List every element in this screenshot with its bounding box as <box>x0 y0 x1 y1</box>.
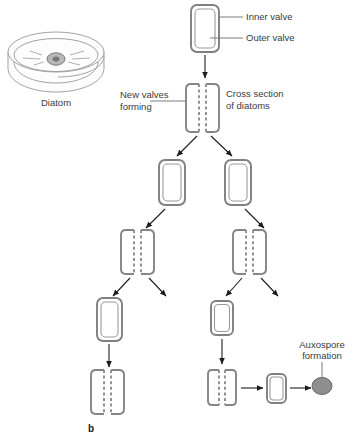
cell-tiny-before-auxospore <box>267 374 286 403</box>
cross-section-label-line2: of diatoms <box>226 100 270 111</box>
cell-generation-4-right <box>211 301 233 335</box>
cell-generation-3-right-dividing <box>233 230 266 274</box>
inner-valve-label: Inner valve <box>246 11 292 22</box>
dividing-cell-callouts: New valves forming Cross section of diat… <box>120 88 284 112</box>
arrow-gen1-gen2-right <box>211 136 232 156</box>
auxospore-label-line2: formation <box>302 350 342 361</box>
arrow-gen3-gen4-right <box>261 278 278 296</box>
arrow-gen3-gen4-left <box>113 278 130 296</box>
auxospore: Auxospore formation <box>299 339 344 395</box>
diatom-division-figure: Diatom Inner valve Outer valve <box>0 0 355 439</box>
diatom-label: Diatom <box>41 97 71 108</box>
outer-valve-label: Outer valve <box>246 32 295 43</box>
diatom-nucleolus <box>53 57 60 62</box>
arrow-gen2-gen3-right <box>245 209 264 228</box>
arrow-gen3-gen4-rightinner <box>226 278 242 296</box>
cell-generation-5-right-dividing <box>208 370 236 405</box>
arrow-gen2-gen3-left <box>146 209 165 228</box>
cross-section-label-line1: Cross section <box>226 88 284 99</box>
auxospore-shape <box>312 378 332 395</box>
cell-generation-3-left-dividing <box>121 230 154 274</box>
cell-generation-2-right <box>225 160 251 205</box>
arrow-gen3-gen4-leftinner <box>149 278 166 296</box>
valve-callouts: Inner valve Outer valve <box>210 11 295 43</box>
cell-generation-5-left-dividing <box>91 370 124 414</box>
new-valves-label-line2: forming <box>120 101 152 112</box>
diatom-illustration: Diatom <box>8 32 104 108</box>
cell-generation-0 <box>191 5 219 52</box>
cell-generation-4-left <box>97 298 122 341</box>
cell-generation-1-dividing <box>186 84 219 132</box>
panel-label-b: b <box>88 423 94 434</box>
new-valves-label-line1: New valves <box>120 89 169 100</box>
arrow-gen1-gen2-left <box>177 136 197 156</box>
auxospore-label-line1: Auxospore <box>299 339 344 350</box>
diagram-canvas: Diatom Inner valve Outer valve <box>0 0 355 439</box>
cell-generation-2-left <box>159 160 185 205</box>
